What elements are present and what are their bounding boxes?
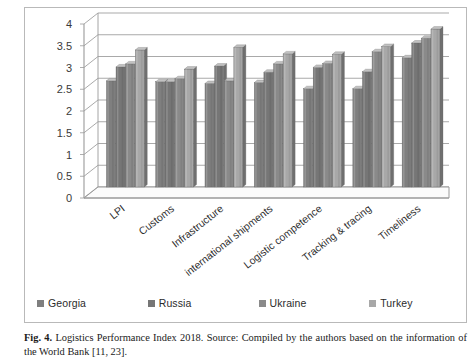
y-axis-tick-label: 0 [66, 192, 72, 204]
figure-frame: 00.511.522.533.54 LPICustomsInfrastructu… [24, 7, 467, 323]
legend-swatch-ukraine [259, 300, 266, 307]
y-axis-tick-label: 2.5 [57, 83, 72, 95]
bar-turkey-6 [431, 27, 443, 187]
bar-turkey-3 [283, 51, 295, 187]
y-axis-tick-label: 3 [66, 62, 72, 74]
bar-turkey-4 [332, 52, 344, 187]
bars-layer [106, 27, 443, 187]
legend-label-russia: Russia [159, 297, 192, 309]
chart-legend: Georgia Russia Ukraine Turkey [25, 291, 468, 315]
chart-plot-area: 00.511.522.533.54 LPICustomsInfrastructu… [25, 8, 468, 293]
figure-caption: Fig. 4. Logistics Performance Index 2018… [24, 331, 467, 358]
legend-item-turkey[interactable]: Turkey [357, 297, 468, 309]
x-axis-categories: LPICustomsInfrastructureinternational sh… [107, 202, 423, 278]
legend-swatch-russia [148, 300, 155, 307]
y-axis-tick-label: 3.5 [57, 40, 72, 52]
figure-caption-text: Logistics Performance Index 2018. Source… [24, 332, 467, 357]
x-axis-category-label: LPI [107, 202, 127, 221]
x-axis-category-label: Timeliness [376, 202, 423, 242]
x-axis-category-label: international shipments [182, 202, 274, 278]
legend-label-turkey: Turkey [380, 297, 412, 309]
legend-label-ukraine: Ukraine [270, 297, 307, 309]
y-axis-tick-label: 4 [66, 18, 72, 30]
legend-label-georgia: Georgia [48, 297, 86, 309]
legend-item-russia[interactable]: Russia [136, 297, 247, 309]
bar-chart-svg: 00.511.522.533.54 LPICustomsInfrastructu… [25, 8, 468, 293]
x-axis-category-label: Customs [136, 202, 176, 237]
y-axis-labels: 00.511.522.533.54 [57, 18, 84, 204]
chart-floor [84, 187, 449, 198]
y-axis-tick-label: 2 [66, 105, 72, 117]
legend-item-ukraine[interactable]: Ukraine [247, 297, 358, 309]
bar-turkey-1 [185, 67, 197, 187]
y-axis-tick-label: 1 [66, 149, 72, 161]
y-axis-tick-label: 0.5 [57, 170, 72, 182]
y-axis-tick-label: 1.5 [57, 127, 72, 139]
bar-turkey-2 [234, 45, 246, 187]
legend-item-georgia[interactable]: Georgia [25, 297, 136, 309]
legend-swatch-turkey [369, 300, 376, 307]
figure-caption-label: Fig. 4. [24, 332, 52, 343]
bar-turkey-0 [135, 47, 147, 187]
bar-turkey-5 [382, 44, 394, 187]
legend-swatch-georgia [37, 300, 44, 307]
